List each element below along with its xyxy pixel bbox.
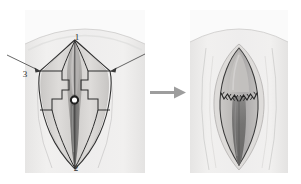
surgical-figure: 1 2 3 xyxy=(0,0,301,184)
label-1: 1 xyxy=(75,32,80,42)
panel-postoperative xyxy=(190,10,288,173)
label-2: 2 xyxy=(74,163,79,173)
label-3: 3 xyxy=(23,69,28,79)
panel-preoperative: 1 2 3 xyxy=(7,10,145,173)
urethral-meatus-ring xyxy=(71,96,78,103)
